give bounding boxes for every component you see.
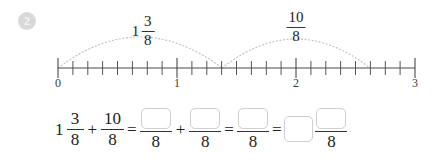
operator-plus-1: + [84,121,102,138]
tick-label-3: 3 [412,76,418,91]
term-4-fraction: 8 [189,108,221,151]
equation-term-2: 10 8 [101,110,124,149]
term-4-numerator-slot [189,108,221,130]
jump-label-1-numerator: 3 [142,14,154,30]
jump-label-1-denominator: 8 [142,33,154,49]
operator-equals-3: = [269,121,285,138]
jump-label-2-denominator: 8 [290,29,302,45]
term-5-denominator: 8 [246,133,261,151]
term-2-fraction: 10 8 [101,110,124,149]
number-line-graphic [0,0,441,92]
jump-label-2-fraction: 10 8 [287,10,306,45]
term-1-fraction: 3 8 [67,110,84,149]
term-4-denominator: 8 [198,133,213,151]
term-1-numerator: 3 [68,110,83,128]
operator-equals-1: = [124,121,140,138]
tick-label-0: 0 [55,76,61,91]
equation-term-5: 8 [237,108,269,151]
equation-term-1: 1 3 8 [55,110,84,149]
term-2-numerator: 10 [101,110,124,128]
equation-term-6: 8 [284,108,347,151]
tick-label-1: 1 [174,76,180,91]
term-3-denominator: 8 [148,133,163,151]
jump-label-1-whole: 1 [132,24,142,39]
term-6-denominator: 8 [324,133,339,151]
answer-box-numerator-4[interactable] [316,108,346,129]
jump-label-1-fraction: 3 8 [141,14,154,49]
answer-box-whole[interactable] [284,116,313,142]
term-2-denominator: 8 [105,131,120,149]
term-1-denominator: 8 [68,131,83,149]
term-6-fraction: 8 [315,108,347,151]
term-3-fraction: 8 [140,108,172,151]
operator-equals-2: = [221,121,237,138]
jump-label-2-numerator: 10 [287,10,306,26]
tick-label-2: 2 [293,76,299,91]
term-6-numerator-slot [315,108,347,130]
jump-label-2: 10 8 [287,10,306,45]
term-5-numerator-slot [237,108,269,130]
equation-term-4: 8 [189,108,221,151]
term-3-numerator-slot [140,108,172,130]
equation-term-3: 8 [140,108,172,151]
term-5-fraction: 8 [237,108,269,151]
jump-label-1: 1 3 8 [132,14,155,49]
answer-box-numerator-2[interactable] [190,108,220,129]
answer-box-numerator-1[interactable] [141,108,171,129]
equation-row: 1 3 8 + 10 8 = 8 + [55,98,347,160]
answer-box-numerator-3[interactable] [238,108,268,129]
number-line: 0 1 2 3 1 3 8 10 8 [0,0,441,92]
term-1-whole: 1 [55,121,67,138]
operator-plus-2: + [172,121,190,138]
